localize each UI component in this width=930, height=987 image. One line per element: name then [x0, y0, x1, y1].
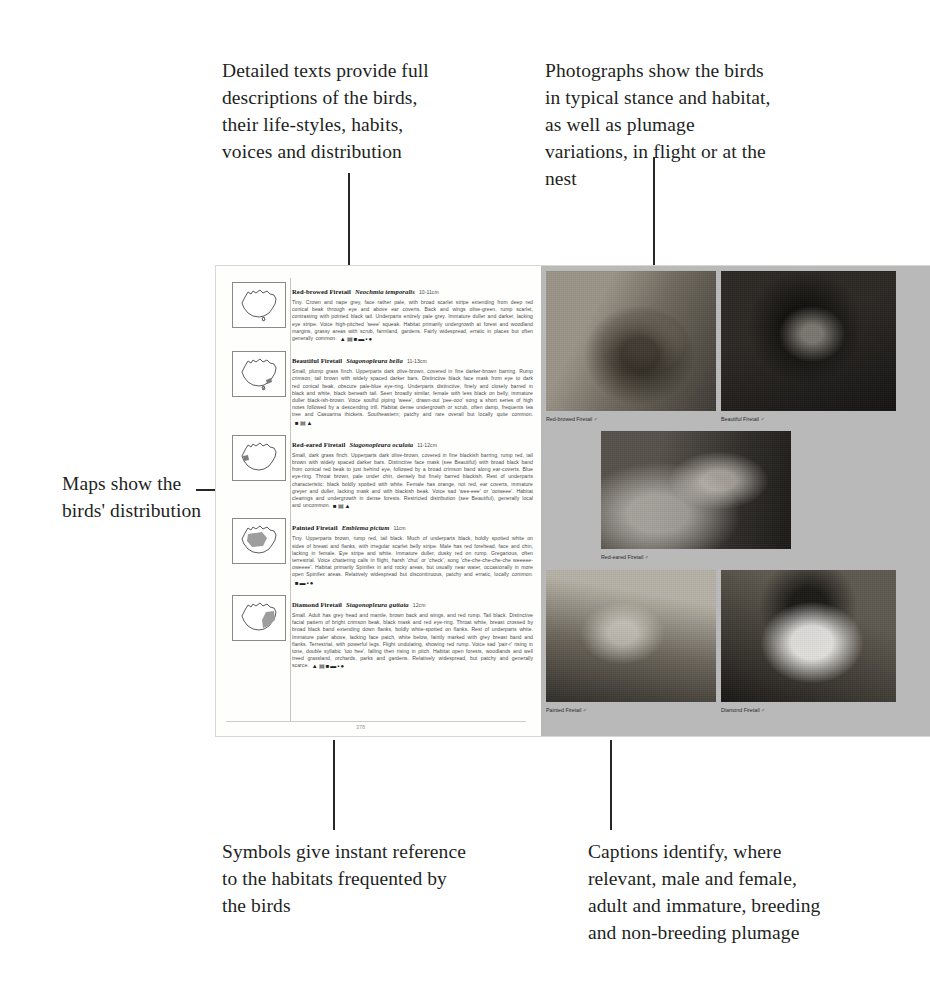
photo-grain: [601, 431, 791, 549]
species-entry: Diamond Firetail Stagonopleura guttata 1…: [216, 593, 541, 671]
species-name: Diamond Firetail: [292, 601, 342, 608]
habitat-symbols-icon: ■▤▲: [295, 420, 314, 427]
leader-line-symbols: [333, 740, 335, 830]
species-name: Beautiful Firetail: [292, 357, 342, 364]
page-number: 378: [356, 724, 365, 730]
species-latin-name: Emblema pictum: [342, 524, 390, 531]
page-rule: [226, 721, 526, 722]
habitat-symbols-icon: ■▤▲: [333, 503, 352, 510]
species-size: 11-12cm: [417, 442, 437, 448]
australia-map-icon: [236, 438, 282, 478]
photo-row: [541, 567, 930, 707]
caption-row: Red-browed Firetail ♂ Beautiful Firetail…: [541, 416, 930, 429]
species-text: Beautiful Firetail Stagonopleura bella 1…: [292, 349, 533, 427]
caption-row: Painted Firetail ♂ Diamond Firetail ♂: [541, 707, 930, 720]
habitat-symbols-icon: ▲▤■▬▪●: [312, 663, 345, 670]
callout-maps: Maps show the birds' distribution: [62, 470, 212, 524]
photo-grain: [721, 271, 896, 411]
map-cell: [232, 593, 286, 671]
photo-caption: Diamond Firetail ♂: [721, 707, 896, 720]
photo-caption: Red-eared Firetail ♂: [601, 554, 925, 560]
species-text: Red-browed Firetail Neochmia temporalis …: [292, 280, 533, 343]
photo-caption: Beautiful Firetail ♂: [721, 416, 896, 429]
australia-map-icon: [236, 285, 282, 325]
photo-grain: [546, 271, 716, 411]
photo-grain: [546, 570, 716, 702]
photo-caption: Red-browed Firetail ♂: [546, 416, 716, 429]
species-description: Tiny. Upperparts brown, rump red, tail b…: [292, 535, 533, 586]
species-description: Small, plump grass finch. Upperparts dar…: [292, 368, 533, 427]
species-entry: Red-eared Firetail Stagonopleura oculata…: [216, 433, 541, 511]
photo-red-browed-firetail: [546, 271, 716, 411]
callout-photographs: Photographs show the birds in typical st…: [545, 57, 775, 192]
distribution-map: [232, 595, 286, 641]
leader-line-captions: [610, 740, 612, 830]
species-description: Small. Adult has grey head and mantle, b…: [292, 612, 533, 671]
species-name: Red-browed Firetail: [292, 288, 351, 295]
caption-row: Red-eared Firetail ♂: [541, 554, 930, 567]
species-latin-name: Stagonopleura guttata: [346, 601, 409, 608]
photo-panel: Red-browed Firetail ♂ Beautiful Firetail…: [541, 266, 930, 736]
distribution-map: [232, 435, 286, 481]
habitat-symbols-icon: ■▬▪●: [295, 580, 314, 587]
map-cell: [232, 516, 286, 586]
species-latin-name: Neochmia temporalis: [355, 288, 415, 295]
distribution-map: [232, 518, 286, 564]
distribution-map: [232, 351, 286, 397]
australia-map-icon: [236, 598, 282, 638]
australia-map-icon: [236, 521, 282, 561]
species-entry: Beautiful Firetail Stagonopleura bella 1…: [216, 349, 541, 427]
species-entry: Red-browed Firetail Neochmia temporalis …: [216, 280, 541, 343]
species-description: Tiny. Crown and nape grey, face rather p…: [292, 299, 533, 343]
species-entry: Painted Firetail Emblema pictum 11cm Tin…: [216, 516, 541, 586]
species-name: Painted Firetail: [292, 524, 338, 531]
map-cell: [232, 280, 286, 343]
photo-caption: Painted Firetail ♂: [546, 707, 716, 720]
callout-detailed-texts: Detailed texts provide full descriptions…: [222, 57, 452, 165]
species-size: 10-11cm: [419, 289, 439, 295]
photo-painted-firetail: [546, 570, 716, 702]
photo-grain: [721, 570, 896, 702]
photo-beautiful-firetail: [721, 271, 896, 411]
species-text: Red-eared Firetail Stagonopleura oculata…: [292, 433, 533, 511]
species-name: Red-eared Firetail: [292, 441, 345, 448]
species-latin-name: Stagonopleura oculata: [349, 441, 413, 448]
photo-row: [541, 266, 930, 416]
species-text: Diamond Firetail Stagonopleura guttata 1…: [292, 593, 533, 671]
distribution-map: [232, 282, 286, 328]
habitat-symbols-icon: ▲▤■▬▪●: [340, 336, 373, 343]
photo-diamond-firetail: [721, 570, 896, 702]
species-size: 12cm: [413, 602, 426, 608]
photo-row: [541, 429, 930, 554]
callout-captions: Captions identify, where relevant, male …: [588, 838, 838, 946]
map-cell: [232, 433, 286, 511]
species-description: Small, dark grass finch. Upperparts dark…: [292, 452, 533, 511]
photo-red-eared-firetail: [601, 431, 791, 549]
map-cell: [232, 349, 286, 427]
callout-symbols: Symbols give instant reference to the ha…: [222, 838, 472, 919]
book-page-spread: Red-browed Firetail Neochmia temporalis …: [216, 266, 930, 736]
australia-map-icon: [236, 354, 282, 394]
species-size: 11cm: [393, 525, 405, 531]
text-column: Red-browed Firetail Neochmia temporalis …: [216, 266, 541, 736]
species-size: 11-13cm: [407, 358, 427, 364]
species-text: Painted Firetail Emblema pictum 11cm Tin…: [292, 516, 533, 586]
species-latin-name: Stagonopleura bella: [346, 357, 403, 364]
